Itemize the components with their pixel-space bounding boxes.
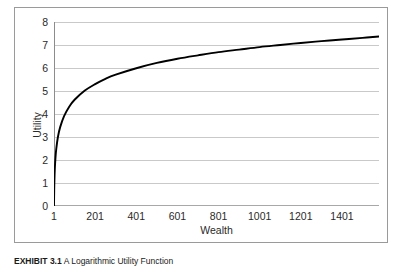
chart-figure-frame: Utility 012345678 1201401601801100112011… [14,7,388,243]
y-tick-label: 2 [42,155,48,166]
x-tick-label: 1001 [248,211,271,222]
x-axis-title: Wealth [54,224,379,236]
figure-caption-label: EXHIBIT 3.1 [14,256,62,266]
y-tick-label: 0 [42,201,48,212]
x-tick-label: 401 [128,211,146,222]
utility-curve-layer [54,22,379,206]
utility-curve-path [54,36,379,206]
y-tick-label: 7 [42,40,48,51]
plot-area: 012345678 1201401601801100112011401 [54,22,379,206]
y-tick-label: 3 [42,132,48,143]
x-tick-label: 1 [51,211,57,222]
y-tick-label: 8 [42,17,48,28]
y-axis-title: Utility [31,112,43,138]
x-tick-label: 201 [86,211,104,222]
x-tick-label: 1201 [289,211,312,222]
figure-caption-text: A Logarithmic Utility Function [64,256,174,266]
y-tick-label: 4 [42,109,48,120]
y-tick-label: 5 [42,86,48,97]
x-tick-label: 801 [210,211,228,222]
y-tick-label: 6 [42,63,48,74]
x-tick-label: 601 [169,211,187,222]
x-tick-label: 1401 [330,211,353,222]
y-tick-label: 1 [42,178,48,189]
figure-caption: EXHIBIT 3.1 A Logarithmic Utility Functi… [14,256,394,266]
